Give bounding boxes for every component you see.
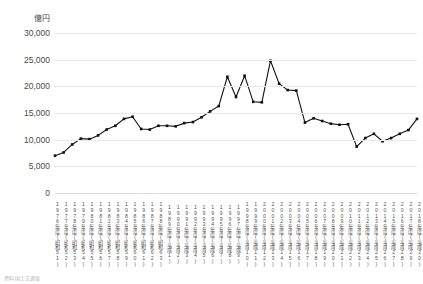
data-point-marker: [373, 133, 376, 136]
data-point-marker: [226, 75, 229, 78]
data-point-marker: [123, 118, 126, 121]
data-point-marker: [338, 123, 341, 126]
data-point-marker: [174, 125, 177, 128]
gridline: [55, 60, 417, 61]
data-point-marker: [347, 123, 350, 126]
data-point-marker: [278, 82, 281, 85]
data-point-marker: [166, 125, 169, 128]
data-point-marker: [355, 145, 358, 148]
data-point-marker: [192, 121, 195, 124]
data-point-marker: [330, 122, 333, 125]
gridline: [55, 33, 417, 34]
data-point-marker: [149, 128, 152, 131]
data-point-marker: [295, 89, 298, 92]
data-point-marker: [105, 128, 108, 131]
series-polyline: [55, 61, 417, 156]
gridline: [55, 193, 417, 194]
data-point-marker: [200, 116, 203, 119]
data-point-marker: [62, 151, 65, 154]
data-point-marker: [235, 96, 238, 99]
data-point-marker: [321, 120, 324, 123]
data-point-marker: [114, 125, 117, 128]
data-point-marker: [157, 125, 160, 128]
source-footnote: 資料:国土交通省: [4, 275, 419, 281]
gridline: [55, 113, 417, 114]
data-point-marker: [304, 121, 307, 124]
y-axis-tick-label: 30,000: [24, 29, 50, 38]
y-axis-tick-label: 20,000: [24, 82, 50, 91]
y-axis-tick-label: 5,000: [29, 162, 50, 171]
gridline: [55, 140, 417, 141]
x-axis-tick-labels: 1976年度(昭和51)1977年度(昭和52)1978年度(昭和53)1979…: [55, 195, 417, 273]
data-point-marker: [252, 101, 255, 104]
data-point-marker: [183, 122, 186, 125]
data-point-marker: [71, 143, 74, 146]
data-point-marker: [407, 129, 410, 132]
data-point-marker: [312, 117, 315, 120]
data-point-marker: [217, 105, 220, 108]
y-axis-tick-label: 25,000: [24, 55, 50, 64]
data-point-marker: [131, 115, 134, 118]
data-point-marker: [54, 154, 57, 157]
gridline: [55, 86, 417, 87]
data-point-marker: [97, 134, 100, 137]
y-axis-unit-label: 億円: [34, 12, 50, 23]
gridline: [55, 166, 417, 167]
line-chart: 億円 05,00010,00015,00020,00025,00030,000 …: [0, 0, 423, 284]
plot-area: 05,00010,00015,00020,00025,00030,000: [55, 33, 417, 193]
data-point-marker: [398, 133, 401, 136]
data-point-marker: [416, 118, 419, 121]
data-point-marker: [286, 89, 289, 92]
y-axis-tick-label: 0: [45, 189, 50, 198]
data-point-marker: [243, 74, 246, 77]
y-axis-tick-label: 15,000: [24, 109, 50, 118]
data-point-marker: [140, 128, 143, 131]
y-axis-tick-label: 10,000: [24, 135, 50, 144]
data-point-marker: [261, 101, 264, 104]
x-axis-tick-label: 2018年度(平成30): [413, 195, 422, 273]
